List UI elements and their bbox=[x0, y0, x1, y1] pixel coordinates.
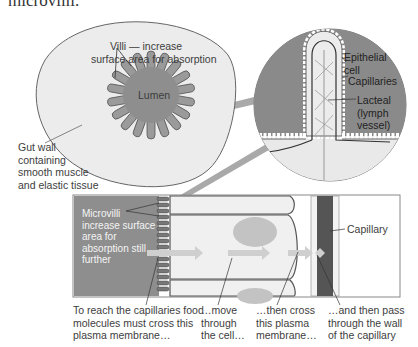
villi-label-line1: Villi — increase bbox=[110, 40, 182, 53]
villi-label-line2: surface area for absorption bbox=[91, 53, 217, 66]
capillaries-label: Capillaries bbox=[348, 75, 397, 88]
lumen-label: Lumen bbox=[138, 89, 170, 102]
epithelial-cell-label: Epithelial cell bbox=[344, 51, 387, 76]
microvilli-label: Microvilli increase surface area for abs… bbox=[82, 208, 155, 266]
capillary-vessel bbox=[317, 196, 333, 296]
gut-wall-label: Gut wall containing smooth muscle and el… bbox=[18, 141, 99, 191]
caption-cross-second-membrane: …then cross this plasma membrane… bbox=[256, 304, 317, 342]
lacteal-label: Lacteal (lymph vessel) bbox=[357, 94, 391, 132]
caption-cross-membrane: To reach the capillaries food molecules … bbox=[73, 304, 204, 342]
capillary-label: Capillary bbox=[347, 223, 388, 236]
caption-move-through-cell: …move through the cell… bbox=[201, 304, 245, 342]
caption-capillary-wall: …and then pass through the wall of the c… bbox=[328, 304, 404, 342]
